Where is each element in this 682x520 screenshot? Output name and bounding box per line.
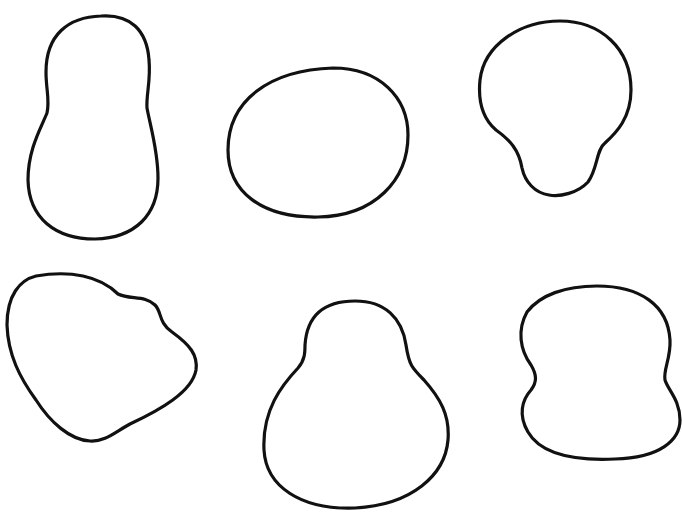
- blob-shapes-canvas: [0, 0, 682, 520]
- background: [0, 0, 682, 520]
